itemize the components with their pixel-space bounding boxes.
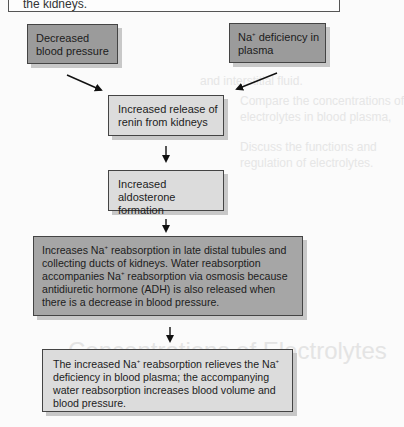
arrow-bp-to-renin — [67, 75, 101, 90]
arrow-na-to-renin — [237, 73, 277, 89]
